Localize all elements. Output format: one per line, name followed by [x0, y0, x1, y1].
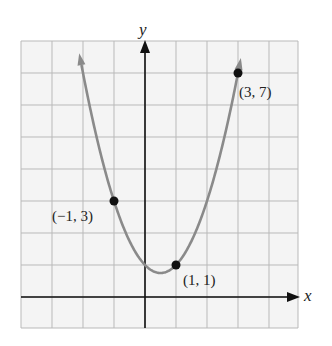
point-label-3-7: (3, 7) [239, 84, 272, 101]
point-label-1-1: (1, 1) [183, 272, 216, 289]
point-neg1-3 [110, 197, 119, 206]
x-axis-label: x [303, 286, 312, 305]
point-label-neg1-3: (−1, 3) [52, 208, 93, 225]
point-3-7 [234, 69, 243, 78]
y-axis-label: y [137, 20, 147, 39]
parabola-graph: (−1, 3) (1, 1) (3, 7) y x [0, 0, 332, 346]
point-1-1 [172, 261, 181, 270]
